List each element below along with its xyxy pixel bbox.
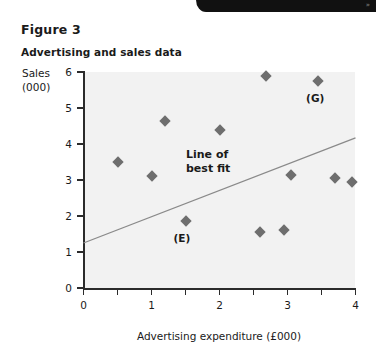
y-axis-tick — [77, 251, 83, 253]
y-axis-title-line-1: Sales — [22, 66, 50, 80]
plot-background — [84, 72, 355, 288]
y-axis-tick-label: 2 — [56, 211, 72, 221]
line-of-best-fit-label: Line of best fit — [186, 148, 230, 176]
y-axis-line — [83, 71, 85, 289]
x-axis-tick-label: 0 — [74, 300, 94, 311]
x-axis-title: Advertising expenditure (£000) — [83, 330, 355, 342]
fit-label-line-1: Line of — [186, 148, 230, 162]
x-axis-tick-label: 1 — [142, 300, 162, 311]
x-axis-tick — [151, 289, 153, 295]
x-axis-tick — [287, 289, 289, 295]
y-axis-tick-label: 1 — [56, 247, 72, 257]
scatter-chart: Sales (000) 0123456 01234 (E)(G) Line of… — [0, 0, 376, 355]
x-axis-minor-tick — [117, 289, 119, 295]
y-axis-tick — [77, 143, 83, 145]
y-axis-tick — [77, 71, 83, 73]
point-label-G: (G) — [306, 92, 324, 104]
y-axis-tick — [77, 179, 83, 181]
y-axis-tick — [77, 215, 83, 217]
x-axis-tick — [83, 289, 85, 295]
x-axis-tick-label: 4 — [346, 300, 366, 311]
y-axis-tick-label: 0 — [56, 283, 72, 293]
y-axis-tick-label: 4 — [56, 139, 72, 149]
y-axis-title-line-2: (000) — [22, 80, 50, 94]
point-label-E: (E) — [174, 232, 191, 244]
y-axis-title: Sales (000) — [22, 66, 50, 94]
x-axis-tick — [219, 289, 221, 295]
x-axis-minor-tick — [253, 289, 255, 295]
y-axis-tick-label: 3 — [56, 175, 72, 185]
x-axis-minor-tick — [185, 289, 187, 295]
y-axis-tick — [77, 107, 83, 109]
y-axis-tick-label: 6 — [56, 67, 72, 77]
x-axis-tick-label: 3 — [278, 300, 298, 311]
y-axis-tick-label: 5 — [56, 103, 72, 113]
fit-label-line-2: best fit — [186, 162, 230, 176]
x-axis-minor-tick — [321, 289, 323, 295]
x-axis-tick-label: 2 — [210, 300, 230, 311]
x-axis-tick — [355, 289, 357, 295]
